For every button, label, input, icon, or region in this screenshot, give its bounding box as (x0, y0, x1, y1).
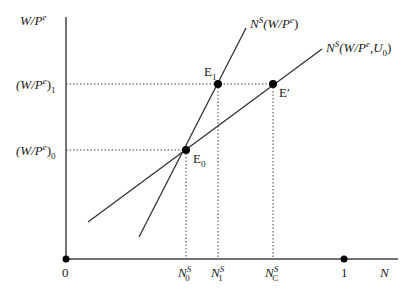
origin-point (63, 256, 70, 263)
y-axis-label: W/Pe (20, 14, 46, 27)
origin-label: 0 (62, 266, 69, 279)
point-label-e1: E1 (204, 65, 216, 78)
labor-supply-curve-steep (139, 28, 246, 237)
point-e-prime (269, 80, 277, 88)
x-tick-n0: NS0 (178, 266, 190, 279)
point-label-e0: E0 (193, 152, 205, 165)
y-tick-wage-0: (W/Pe)0 (16, 144, 56, 157)
x-tick-n1: NS1 (211, 266, 223, 279)
point-e0 (182, 146, 190, 154)
x-tick-nc: NSC (265, 266, 278, 279)
x-tick-one: 1 (341, 266, 348, 279)
y-tick-wage-1: (W/Pe)1 (16, 78, 56, 91)
point-label-e-prime: E′ (279, 86, 290, 99)
full-employment-point (341, 256, 348, 263)
curve-label-steep: NS(W/Pe) (250, 17, 298, 30)
x-axis-label: N (380, 266, 389, 279)
curve-label-flat: NS(W/Pe,U0) (326, 41, 391, 54)
